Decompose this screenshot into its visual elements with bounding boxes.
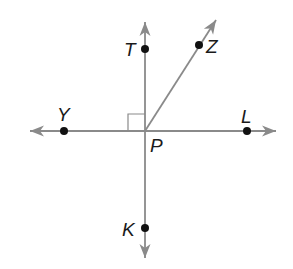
point-label-y: Y — [57, 104, 71, 125]
point-label-l: L — [241, 106, 252, 127]
point-label-t: T — [124, 39, 137, 60]
point-l — [243, 127, 251, 135]
point-y — [60, 127, 68, 135]
point-k — [141, 224, 149, 232]
point-label-k: K — [122, 219, 136, 240]
point-t — [141, 45, 149, 53]
diagram-canvas: TZYLKP — [0, 0, 293, 269]
geometry-diagram: TZYLKP — [0, 0, 293, 269]
right-angle-marker — [128, 114, 145, 131]
point-label-z: Z — [205, 36, 219, 57]
right-angle-icon — [128, 114, 145, 131]
ray-PZ-arrow-end-icon — [204, 20, 216, 35]
point-z — [195, 41, 203, 49]
labels-layer: TZYLKP — [57, 36, 252, 240]
point-label-p: P — [150, 135, 163, 156]
